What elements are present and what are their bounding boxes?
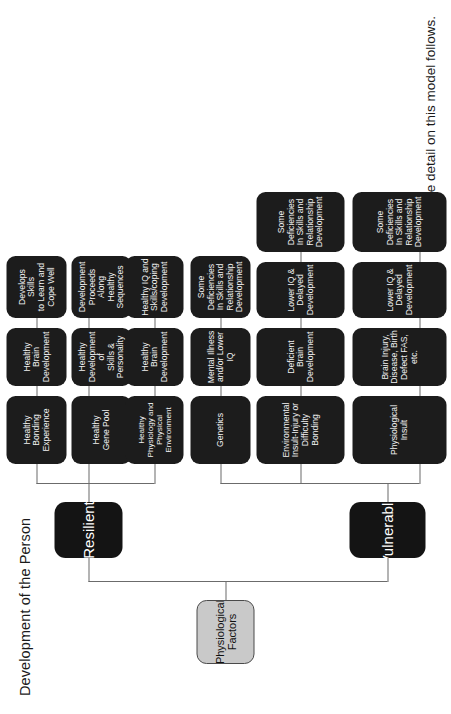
node-r-c1-l0[interactable]: HealthyGene Pool	[71, 396, 131, 464]
node-label: DevelopmentProceeds AlongHealthy Sequenc…	[77, 256, 125, 318]
node-r-c2-l1[interactable]: HealthyBrainDevelopment	[6, 328, 66, 386]
node-r-c0-l0[interactable]: HealthyPhysiology andPhysicalEnvironment	[125, 396, 183, 464]
connector-v-c1-12	[300, 318, 301, 328]
connector-resilient-col0	[154, 464, 155, 484]
node-v-c0-l1[interactable]: Mental Illnessand/or Lower IQ	[190, 328, 250, 386]
connector-v-c2-23	[419, 252, 420, 262]
node-label: HealthyDevelopment ofSkills & Personalit…	[77, 328, 125, 386]
node-vulnerable[interactable]: Vulnerable	[349, 502, 425, 558]
node-v-c0-l2[interactable]: Some DeficienciesIn Skills andRelationsh…	[190, 256, 250, 318]
node-v-c1-l1[interactable]: DeficientBrainDevelopment	[256, 328, 344, 386]
node-r-c1-l1[interactable]: HealthyDevelopment ofSkills & Personalit…	[71, 328, 131, 386]
connector-v-c2-01	[419, 386, 420, 396]
connector-v-c1-01	[300, 386, 301, 396]
node-v-c2-l1[interactable]: Brain Injury,Disease, BirthDefect FAS, e…	[352, 328, 446, 386]
node-v-c1-l3[interactable]: Some DeficienciesIn Skills andRelationsh…	[256, 192, 344, 252]
connector-r-c0-01	[154, 386, 155, 396]
diagram-canvas: Development of the Person More detail on…	[0, 0, 451, 714]
connector-r-c1-01	[88, 386, 89, 396]
node-label: Some DeficienciesIn Skills andRelationsh…	[196, 256, 244, 318]
node-r-c0-l1[interactable]: HealthyBrainDevelopment	[125, 328, 183, 386]
connector-resilient-spine	[36, 483, 154, 484]
node-label: DeficientBrainDevelopment	[286, 330, 315, 385]
node-label: HealthyGene Pool	[91, 408, 110, 453]
node-r-c1-l2[interactable]: DevelopmentProceeds AlongHealthy Sequenc…	[71, 256, 131, 318]
connector-vulnerable-col2	[419, 464, 420, 484]
connector-r-c0-12	[154, 318, 155, 328]
connector-root-stub	[225, 582, 226, 600]
node-v-c2-l0[interactable]: PhysiologicalInsult	[352, 396, 446, 464]
node-v-c1-l0[interactable]: EnvironmentalInsult-Injury orDifficulty …	[256, 396, 344, 464]
page-title: Development of the Person	[16, 518, 32, 696]
footnote-text: More detail on this model follows.	[422, 16, 437, 216]
node-v-c0-l0[interactable]: Genetics	[190, 396, 250, 464]
connector-resilient-stub	[88, 484, 89, 502]
connector-to-resilient	[88, 558, 89, 582]
node-resilient[interactable]: Resilient	[54, 502, 122, 558]
node-label: PhysiologicalInsult	[389, 403, 408, 457]
node-label: Healthy IQ andSkills/copingDevelopment	[140, 256, 169, 317]
connector-v-c0-12	[220, 318, 221, 328]
node-label: Vulnerable	[379, 502, 396, 558]
connector-vulnerable-stub	[387, 484, 388, 502]
connector-resilient-col1	[88, 464, 89, 484]
connector-v-c0-01	[220, 386, 221, 396]
connector-v-c1-23	[300, 252, 301, 262]
node-label: PhysiologicalFactors	[213, 600, 238, 664]
node-label: HealthyBrainDevelopment	[140, 330, 169, 385]
node-v-c2-l2[interactable]: Lower IQ &DelayedDevelopment	[352, 262, 446, 318]
node-v-c2-l3[interactable]: Some DeficienciesIn Skills andRelationsh…	[352, 192, 446, 252]
connector-r-c2-01	[36, 386, 37, 396]
node-label: HealthyBrainDevelopment	[22, 330, 51, 385]
node-label: Develops Skillsto Learn andCope Well	[17, 256, 56, 318]
connector-r-c2-12	[36, 318, 37, 328]
node-v-c1-l2[interactable]: Lower IQ &DelayedDevelopment	[256, 262, 344, 318]
node-physiological-factors[interactable]: PhysiologicalFactors	[196, 600, 254, 664]
node-label: Lower IQ &DelayedDevelopment	[286, 263, 315, 318]
connector-vulnerable-spine	[220, 483, 419, 484]
node-label: Brain Injury,Disease, BirthDefect FAS, e…	[380, 328, 419, 386]
node-label: Resilient	[80, 502, 97, 558]
node-label: Mental Illnessand/or Lower IQ	[206, 328, 235, 386]
node-label: EnvironmentalInsult-Injury orDifficulty …	[281, 396, 320, 464]
node-label: Some DeficienciesIn Skills andRelationsh…	[375, 192, 423, 252]
node-label: Some DeficienciesIn Skills andRelationsh…	[276, 192, 324, 252]
node-r-c2-l0[interactable]: HealthyBondingExperience	[6, 396, 66, 464]
connector-vulnerable-col0	[220, 464, 221, 484]
node-label: Genetics	[215, 411, 225, 449]
node-label: HealthyBondingExperience	[22, 407, 51, 454]
connector-r-c1-12	[88, 318, 89, 328]
connector-resilient-col2	[36, 464, 37, 484]
node-label: Lower IQ &DelayedDevelopment	[385, 263, 414, 318]
node-label: HealthyPhysiology andPhysicalEnvironment	[136, 401, 172, 460]
connector-vulnerable-col1	[300, 464, 301, 484]
node-r-c0-l2[interactable]: Healthy IQ andSkills/copingDevelopment	[125, 256, 183, 318]
connector-v-c2-12	[419, 318, 420, 328]
node-r-c2-l2[interactable]: Develops Skillsto Learn andCope Well	[6, 256, 66, 318]
connector-root-spine	[88, 581, 387, 582]
connector-to-vulnerable	[387, 558, 388, 582]
